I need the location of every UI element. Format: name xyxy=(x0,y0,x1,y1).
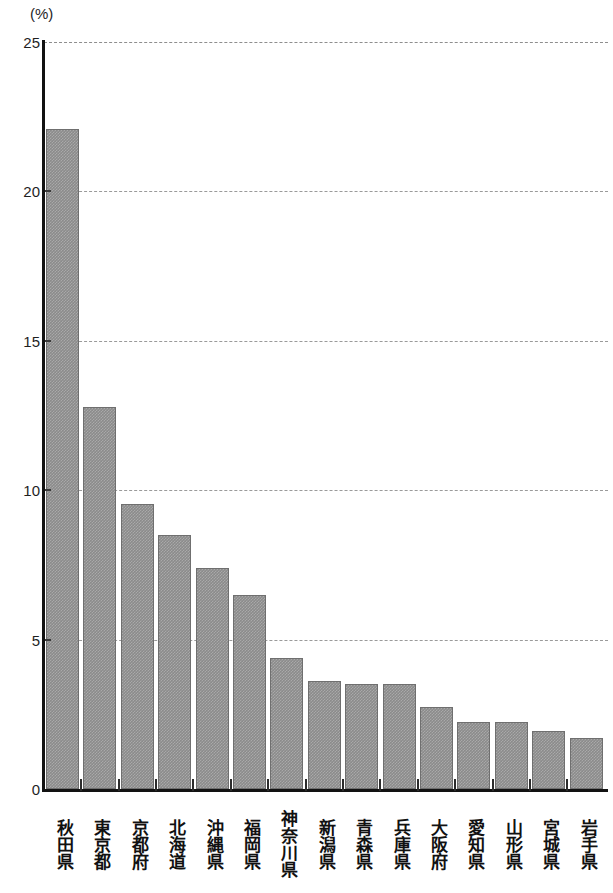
x-label-text: 宮城県 xyxy=(541,796,560,892)
y-tick-mark-15 xyxy=(45,340,51,342)
x-tick-mark xyxy=(80,779,82,791)
x-tick-mark xyxy=(529,779,531,791)
x-label-text: 沖縄県 xyxy=(204,796,223,892)
x-axis-label: 山形県 xyxy=(500,796,522,892)
x-tick-mark xyxy=(566,779,568,791)
x-tick-mark xyxy=(267,779,269,791)
bar xyxy=(233,595,266,789)
x-label-text: 新潟県 xyxy=(316,796,335,892)
x-axis-label: 兵庫県 xyxy=(388,796,410,892)
bars-layer xyxy=(0,0,613,893)
x-tick-mark xyxy=(118,779,120,791)
bar xyxy=(121,504,154,789)
x-axis-label: 宮城県 xyxy=(538,796,560,892)
x-tick-mark xyxy=(155,779,157,791)
bar xyxy=(383,684,416,789)
x-axis-labels: 秋田県東京都京都府北海道沖縄県福岡県神奈川県新潟県青森県兵庫県大阪府愛知県山形県… xyxy=(0,796,613,893)
x-label-text: 山形県 xyxy=(503,796,522,892)
x-tick-mark xyxy=(454,779,456,791)
bar xyxy=(457,722,490,789)
x-axis-label: 神奈川県 xyxy=(276,796,298,892)
bar xyxy=(570,738,603,789)
x-label-text: 愛知県 xyxy=(466,796,485,892)
bar xyxy=(46,129,79,789)
x-label-text: 東京都 xyxy=(92,796,111,892)
bar xyxy=(83,407,116,789)
x-axis-label: 愛知県 xyxy=(463,796,485,892)
x-tick-mark xyxy=(379,779,381,791)
x-axis-label: 岩手県 xyxy=(575,796,597,892)
bar xyxy=(308,681,341,789)
x-axis-label: 京都府 xyxy=(126,796,148,892)
x-tick-mark xyxy=(342,779,344,791)
x-tick-mark xyxy=(192,779,194,791)
x-label-text: 京都府 xyxy=(129,796,148,892)
x-label-text: 秋田県 xyxy=(55,796,74,892)
x-label-text: 神奈川県 xyxy=(279,796,298,892)
x-axis-label: 新潟県 xyxy=(313,796,335,892)
x-axis-label: 福岡県 xyxy=(239,796,261,892)
x-axis-label: 青森県 xyxy=(351,796,373,892)
x-label-text: 北海道 xyxy=(167,796,186,892)
bar-chart: (%) 0510152025 秋田県東京都京都府北海道沖縄県福岡県神奈川県新潟県… xyxy=(0,0,613,893)
y-tick-mark-20 xyxy=(45,190,51,192)
x-tick-mark xyxy=(305,779,307,791)
x-axis-label: 秋田県 xyxy=(52,796,74,892)
x-axis-label: 大阪府 xyxy=(426,796,448,892)
y-tick-mark-5 xyxy=(45,639,51,641)
x-label-text: 青森県 xyxy=(354,796,373,892)
x-label-text: 大阪府 xyxy=(429,796,448,892)
x-tick-mark xyxy=(417,779,419,791)
bar xyxy=(196,568,229,789)
bar xyxy=(270,658,303,789)
x-tick-mark xyxy=(230,779,232,791)
bar xyxy=(532,731,565,789)
x-label-text: 兵庫県 xyxy=(391,796,410,892)
bar xyxy=(495,722,528,789)
y-tick-mark-10 xyxy=(45,489,51,491)
bar xyxy=(158,535,191,789)
x-axis-label: 沖縄県 xyxy=(201,796,223,892)
x-axis-label: 東京都 xyxy=(89,796,111,892)
x-axis-label: 北海道 xyxy=(164,796,186,892)
bar xyxy=(420,707,453,789)
x-tick-mark xyxy=(492,779,494,791)
x-label-text: 福岡県 xyxy=(242,796,261,892)
bar xyxy=(345,684,378,789)
x-label-text: 岩手県 xyxy=(578,796,597,892)
